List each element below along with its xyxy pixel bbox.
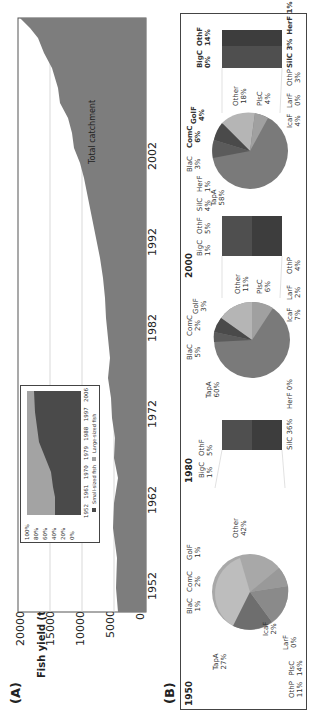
slice-pct: 3%: [294, 69, 302, 86]
label-Other-1980: Other11%: [234, 274, 250, 294]
slice-pct: 2%: [194, 571, 202, 592]
slice-pct: 4%: [294, 114, 302, 128]
label-OthP-1980: OthP4%: [286, 257, 302, 274]
slice-name: LarF: [286, 93, 294, 108]
slice-name: PlsC: [256, 279, 264, 294]
pie-charts: [0, 0, 316, 718]
label-GolF-2000: GolF4%: [190, 106, 206, 124]
label-OthP-2000: OthP3%: [286, 69, 302, 86]
label-TapA-1980: TapA60%: [205, 381, 221, 398]
year-2000: 2000: [184, 253, 194, 278]
slice-name: GolF: [192, 298, 200, 314]
label-BlaC-1950: BlaC1%: [186, 598, 202, 614]
slice-name: ComC: [186, 315, 194, 336]
slice-pct: 27%: [220, 653, 228, 670]
seg-name: BigC: [196, 50, 204, 68]
slice-name: GolF: [186, 544, 194, 560]
bar-label-HerF: HerF 0%: [286, 379, 294, 409]
bar-label-HerF: HerF 1%: [286, 2, 294, 35]
slice-name: OthP: [286, 69, 294, 86]
slice-pct: 58%: [218, 189, 226, 206]
seg-pct: 14%: [204, 27, 212, 46]
seg-name: SilC: [286, 53, 294, 68]
label-BlaC-1980: BlaC5%: [186, 344, 202, 360]
bar-label-OthF: OthF5%: [198, 416, 214, 456]
slice-pct: 7%: [294, 308, 302, 322]
slice-pct: 42%: [240, 518, 248, 538]
slice-name: BlaC: [186, 344, 194, 360]
slice-pct: 0%: [290, 635, 298, 650]
slice-pct: 11%: [242, 274, 250, 294]
label-OthP-1950: OthP11%: [288, 681, 304, 698]
slice-pct: 4%: [264, 91, 272, 106]
seg-name: SilC: [286, 437, 294, 450]
slice-name: LarF: [286, 285, 294, 300]
seg-pct: 1%: [286, 2, 294, 14]
seg-pct: 1%: [204, 240, 212, 256]
slice-name: TapA: [205, 381, 213, 398]
slice-name: Other: [234, 274, 242, 294]
bar-label-BigC: BigC0%: [196, 50, 212, 68]
slice-name: Other: [232, 86, 240, 106]
slice-name: ComC: [186, 571, 194, 592]
slice-name: IcaF: [262, 622, 270, 636]
pie-1950: [212, 554, 288, 630]
label-PlsC-1980: PlsC6%: [256, 279, 272, 294]
slice-name: PlsC: [288, 660, 296, 676]
bar-label-OthF: OthF14%: [196, 27, 212, 46]
slice-pct: 2%: [194, 315, 202, 336]
seg-name: HerF: [286, 392, 294, 408]
slice-pct: 2%: [270, 622, 278, 636]
slice-name: BlaC: [186, 156, 194, 172]
slice-pct: 2%: [294, 285, 302, 300]
label-BlaC-2000: BlaC3%: [186, 156, 202, 172]
slice-name: Other: [232, 518, 240, 538]
seg-pct: 0%: [204, 50, 212, 68]
bar-label-SilC: SilC 36%: [286, 419, 294, 450]
label-ComC-1980: ComC2%: [186, 315, 202, 336]
bar-label-BigC: BigC1%: [196, 240, 212, 256]
seg-name: HerF: [286, 16, 294, 35]
slice-pct: 6%: [194, 126, 202, 148]
seg-pct: 3%: [286, 39, 294, 51]
label-Other-2000: Other18%: [232, 86, 248, 106]
slice-name: GolF: [190, 106, 198, 124]
label-PlsC-1950: PlsC14%: [288, 660, 304, 676]
label-IcaF-1980: IcaF7%: [286, 308, 302, 322]
label-IcaF-2000: IcaF4%: [286, 114, 302, 128]
slice-pct: 4%: [294, 257, 302, 274]
slice-pct: 60%: [213, 381, 221, 398]
seg-pct: 0%: [286, 379, 294, 390]
slice-name: OthP: [286, 257, 294, 274]
seg-pct: 36%: [286, 419, 294, 435]
slice-name: IcaF: [286, 308, 294, 322]
slice-name: BlaC: [186, 598, 194, 614]
bar-label-OthF: OthF5%: [196, 217, 212, 234]
seg-name: OthF: [196, 27, 204, 46]
label-LarF-2000: LarF0%: [286, 93, 302, 108]
slice-pct: 11%: [296, 681, 304, 698]
slice-name: ComC: [186, 126, 194, 148]
seg-pct: 5%: [206, 416, 214, 456]
slice-pct: 3%: [200, 298, 208, 314]
slice-pct: 18%: [240, 86, 248, 106]
slice-pct: 1%: [194, 598, 202, 614]
year-1950: 1950: [184, 681, 194, 706]
bar-label-SilC: SilC 3%: [286, 39, 294, 68]
slice-name: PlsC: [256, 91, 264, 106]
seg-name: BigC: [196, 240, 204, 256]
label-ComC-1950: ComC2%: [186, 571, 202, 592]
label-ComC-2000: ComC6%: [186, 126, 202, 148]
slice-name: LarF: [282, 635, 290, 650]
label-GolF-1950: GolF1%: [186, 544, 202, 560]
pie-1980: [214, 302, 290, 378]
bar-labels-2000-bottom: SilC 3% HerF 1%: [286, 2, 294, 68]
seg-name: SilC: [196, 198, 204, 211]
label-PlsC-2000: PlsC4%: [256, 91, 272, 106]
slice-name: OthP: [288, 681, 296, 698]
label-TapA-2000: TapA58%: [210, 189, 226, 206]
seg-name: OthF: [198, 416, 206, 456]
label-Other-1950: Other42%: [232, 518, 248, 538]
slice-pct: 6%: [264, 279, 272, 294]
seg-name: OthF: [196, 217, 204, 234]
